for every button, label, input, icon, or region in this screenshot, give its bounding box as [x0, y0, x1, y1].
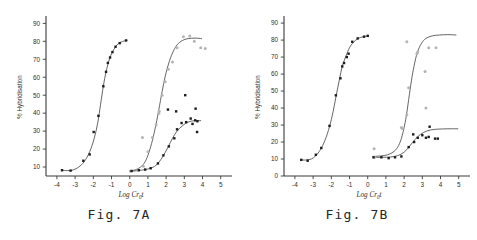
x-tick-label-a: 5 [219, 181, 223, 188]
datapoint-fast-component-curve [109, 56, 111, 58]
datapoint-slow-component-curve-lower [437, 137, 439, 139]
x-tick-label-b: -2 [328, 181, 334, 188]
datapoint-slow-component-curve-lower [407, 146, 409, 148]
datapoint-slow-component-curve-upper [405, 113, 408, 116]
axis-lines-a [46, 16, 232, 176]
datapoint-slow-component-curve-lower [428, 126, 430, 128]
datapoint-fast-component-curve [328, 125, 330, 127]
datapoint-slow-component-curve-lower [191, 123, 193, 125]
y-tick-label-a: 10 [33, 163, 41, 170]
y-tick-label-b: 60 [271, 70, 279, 77]
datapoint-slow-component-curve-upper [407, 86, 410, 89]
y-tick-label-b: 30 [271, 121, 279, 128]
datapoint-slow-component-curve-upper [427, 46, 430, 49]
datapoint-slow-component-curve-lower [175, 110, 177, 112]
datapoint-slow-component-curve-upper [176, 46, 179, 49]
datapoint-slow-component-curve-upper [405, 40, 408, 43]
curve-slow-component-curve-lower [130, 121, 201, 172]
x-tick-label-a: -1 [109, 181, 115, 188]
datapoint-fast-component-curve [102, 85, 104, 87]
x-tick-label-b: 1 [384, 181, 388, 188]
datapoint-slow-component-curve-upper [424, 107, 427, 110]
datapoint-fast-component-curve [114, 46, 116, 48]
axis-ticks-a [43, 23, 221, 179]
datapoint-fast-component-curve [346, 56, 348, 58]
y-axis-title-b: % Hybridisation [254, 75, 262, 119]
datapoint-slow-component-curve-lower [168, 145, 170, 147]
datapoint-fast-component-curve [351, 41, 353, 43]
x-tick-label-a: -4 [54, 181, 60, 188]
y-tick-label-a: 20 [33, 145, 41, 152]
y-tick-label-a: 90 [33, 20, 41, 27]
datapoint-slow-component-curve-upper [424, 70, 427, 73]
x-tick-label-b: 3 [421, 181, 425, 188]
y-tick-label-b: 20 [271, 138, 279, 145]
datapoint-slow-component-curve-lower [184, 94, 186, 96]
datapoint-slow-component-curve-lower [176, 128, 178, 130]
datapoint-fast-component-curve [69, 169, 71, 171]
datapoint-slow-component-curve-lower [412, 133, 414, 135]
y-tick-label-a: 50 [33, 92, 41, 99]
curve-slow-component-curve-lower [373, 129, 458, 158]
datapoint-slow-component-curve-lower [425, 137, 427, 139]
datapoint-fast-component-curve [343, 62, 345, 64]
datapoint-slow-component-curve-lower [387, 157, 389, 159]
datapoint-slow-component-curve-upper [155, 123, 158, 126]
x-tick-label-a: -2 [90, 181, 96, 188]
datapoints-a [61, 34, 207, 172]
datapoint-slow-component-curve-lower [180, 122, 182, 124]
datapoints-b [300, 35, 439, 162]
datapoint-slow-component-curve-lower [413, 141, 415, 143]
datapoint-slow-component-curve-lower [138, 169, 140, 171]
datapoint-slow-component-curve-upper [146, 150, 149, 153]
chart-b-svg: 0102030405060708090-4-3-2-1012345Log Cr0… [238, 0, 476, 205]
y-tick-label-b: 70 [271, 53, 279, 60]
datapoint-slow-component-curve-lower [372, 156, 374, 158]
datapoint-slow-component-curve-upper [167, 68, 170, 71]
datapoint-slow-component-curve-lower [417, 137, 419, 139]
y-tick-label-b: 50 [271, 87, 279, 94]
plot-area-a: 102030405060708090-4-3-2-1012345Log Cr0t… [0, 0, 238, 205]
datapoint-slow-component-curve-lower [400, 155, 402, 157]
datapoint-fast-component-curve [320, 147, 322, 149]
y-tick-label-b: 80 [271, 36, 279, 43]
datapoint-fast-component-curve [339, 77, 341, 79]
datapoint-fast-component-curve [341, 65, 343, 67]
datapoint-fast-component-curve [82, 160, 84, 162]
plot-area-b: 0102030405060708090-4-3-2-1012345Log Cr0… [238, 0, 476, 205]
datapoint-slow-component-curve-upper [141, 136, 144, 139]
datapoint-slow-component-curve-lower [149, 167, 151, 169]
datapoint-slow-component-curve-lower [194, 107, 196, 109]
datapoint-fast-component-curve [125, 39, 127, 41]
datapoint-fast-component-curve [315, 154, 317, 156]
datapoint-fast-component-curve [300, 159, 302, 161]
datapoint-slow-component-curve-upper [171, 60, 174, 63]
datapoint-slow-component-curve-upper [161, 94, 164, 97]
datapoint-slow-component-curve-upper [434, 46, 437, 49]
datapoint-slow-component-curve-upper [199, 46, 202, 49]
axis-lines-b [284, 16, 470, 176]
datapoint-fast-component-curve [107, 62, 109, 64]
y-axis-title-a: % Hybridisation [16, 75, 24, 119]
curves-b [300, 35, 457, 160]
y-tick-label-b: 40 [271, 104, 279, 111]
datapoint-slow-component-curve-lower [185, 121, 187, 123]
x-tick-label-a: 0 [128, 181, 132, 188]
x-tick-label-a: 2 [164, 181, 168, 188]
datapoint-slow-component-curve-lower [144, 168, 146, 170]
y-tick-label-b: 90 [271, 19, 279, 26]
datapoint-slow-component-curve-lower [167, 108, 169, 110]
datapoint-fast-component-curve [111, 51, 113, 53]
chart-a-svg: 102030405060708090-4-3-2-1012345Log Cr0t… [0, 0, 238, 205]
x-tick-label-b: 0 [366, 181, 370, 188]
y-tick-label-a: 60 [33, 74, 41, 81]
datapoint-slow-component-curve-lower [194, 119, 196, 121]
axis-ticks-b [281, 23, 459, 179]
datapoint-slow-component-curve-upper [188, 34, 191, 37]
datapoint-slow-component-curve-upper [151, 136, 154, 139]
x-tick-label-a: -3 [72, 181, 78, 188]
x-tick-label-b: -1 [347, 181, 353, 188]
datapoint-slow-component-curve-upper [401, 127, 404, 130]
datapoint-slow-component-curve-lower [380, 156, 382, 158]
x-axis-title-a: Log Cr0t [117, 191, 144, 200]
